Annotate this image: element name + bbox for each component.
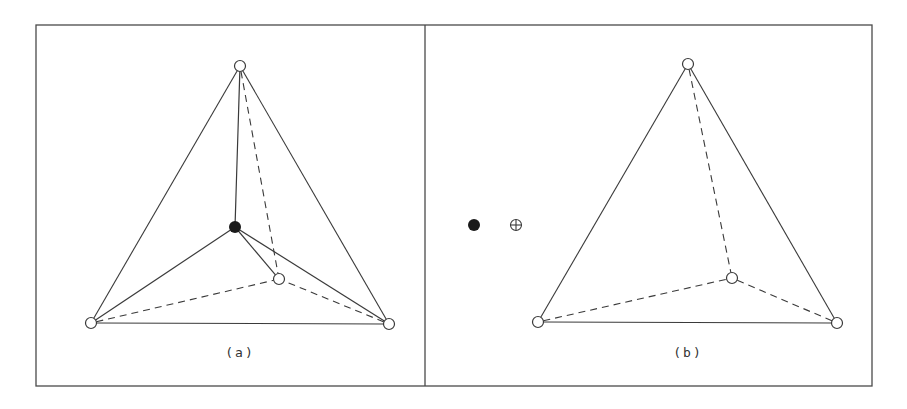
solid-edge-bottom_left-bottom_right [96,323,383,324]
vertex-atom-bottom_left [533,317,544,328]
tetrahedra-diagram: (a) (b) [0,0,907,409]
panel-a-label: (a) [225,345,254,360]
vertex-atom-bottom_right [832,318,843,329]
panel-b-edges [541,69,834,323]
outer-frame [36,25,872,386]
center-bond-inner [235,227,275,275]
vertex-atom-bottom_right [384,319,395,330]
dashed-edge-bottom_right-inner [737,280,832,321]
solid-edge-top-bottom_right [691,69,835,318]
solid-edge-top-bottom_left [541,69,685,317]
vertex-atom-top [683,59,694,70]
panel-b-label: (b) [673,345,702,360]
panel-a-edges [94,71,386,324]
crossed-circle-symbol-icon [511,220,522,231]
center-bond-bottom_right [235,227,384,321]
panel-a-vertices [86,61,395,330]
center-bond-top [235,71,240,227]
filled-atom-symbol-icon [468,219,480,231]
vertex-atom-inner [274,274,285,285]
center-atom-filled [229,221,241,233]
panel-b-empty-tetrahedron: (b) [533,59,843,361]
vertex-atom-top [235,61,246,72]
legend-symbols [468,219,522,231]
solid-edge-top-bottom_left [94,71,237,318]
center-bond-bottom_left [96,227,235,320]
dashed-edge-bottom_right-inner [284,281,384,322]
figure-frame [36,25,872,386]
dashed-edge-bottom_left-inner [543,279,726,321]
solid-edge-bottom_left-bottom_right [543,322,831,323]
vertex-atom-inner [727,273,738,284]
panel-a-tetrahedron-with-center-atom: (a) [86,61,395,361]
dashed-edge-top-inner [241,71,278,273]
dashed-edge-top-inner [689,69,731,272]
vertex-atom-bottom_left [86,318,97,329]
